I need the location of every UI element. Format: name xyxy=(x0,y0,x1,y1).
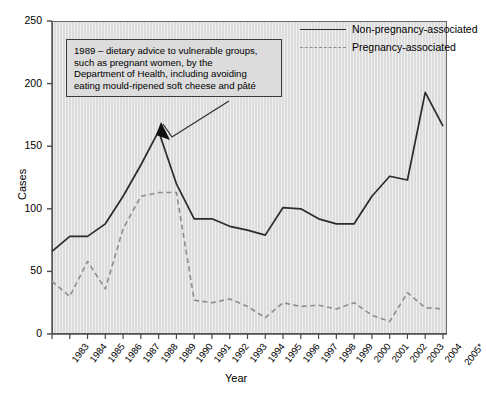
y-tick-label: 50 xyxy=(8,264,42,276)
data-series-group xyxy=(52,92,443,321)
annotation-textbox: 1989 – dietary advice to vulnerable grou… xyxy=(66,39,282,97)
legend-label-non-pregnancy: Non-pregnancy-associated xyxy=(352,23,478,35)
legend-item-non-pregnancy: Non-pregnancy-associated xyxy=(300,23,478,35)
annotation-line-4: eating mould-ripened soft cheese and pât… xyxy=(74,80,275,92)
legend-swatch-dashed xyxy=(300,47,346,48)
x-tick-marks xyxy=(52,334,443,339)
y-tick-label: 150 xyxy=(8,139,42,151)
legend-swatch-solid xyxy=(300,29,346,30)
annotation-line-1: 1989 – dietary advice to vulnerable grou… xyxy=(74,45,275,57)
annotation-leader-line xyxy=(156,101,229,140)
y-tick-label: 0 xyxy=(8,327,42,339)
legend-item-pregnancy: Pregnancy-associated xyxy=(300,41,456,53)
series-line-pregnancy xyxy=(52,193,443,322)
y-axis-title: Cases xyxy=(16,169,28,200)
annotation-line-2: such as pregnant women, by the xyxy=(74,57,275,69)
y-tick-label: 100 xyxy=(8,202,42,214)
y-tick-label: 200 xyxy=(8,77,42,89)
annotation-line-3: Department of Health, including avoiding xyxy=(74,68,275,80)
legend-label-pregnancy: Pregnancy-associated xyxy=(352,41,456,53)
x-axis-title: Year xyxy=(225,372,247,384)
y-tick-label: 250 xyxy=(8,14,42,26)
y-tick-marks xyxy=(47,21,52,334)
series-line-non-pregnancy xyxy=(52,92,443,251)
